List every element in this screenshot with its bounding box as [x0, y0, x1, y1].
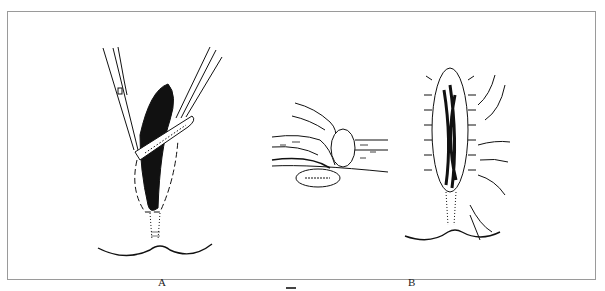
panel-a-label: A — [158, 276, 166, 288]
surgical-illustration — [0, 0, 605, 291]
caption-fragment — [286, 287, 296, 289]
panel-b-sutured-wound — [405, 68, 510, 240]
panel-a-drawing — [98, 47, 222, 256]
panel-b-cross-section — [272, 103, 388, 187]
panel-b-label: B — [408, 276, 415, 288]
